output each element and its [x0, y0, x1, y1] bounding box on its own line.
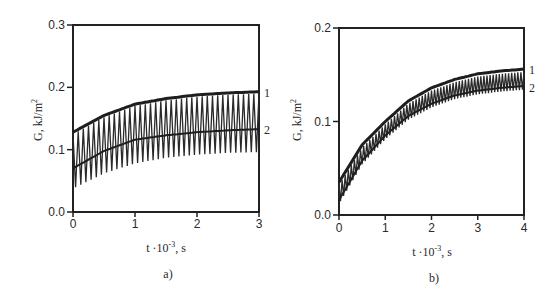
- curve-label-1-a: 1: [264, 86, 270, 100]
- y-tick-label: 0.1: [314, 115, 331, 129]
- x-tick-label: 0: [70, 217, 77, 231]
- x-axis-label-b: t ·10-3, s: [412, 244, 452, 259]
- oscillation-trace: [73, 94, 259, 188]
- y-tick-label: 0.2: [48, 80, 65, 94]
- curve-label-1-b: 1: [529, 63, 535, 77]
- panel-b: 012340.00.10.2 1 2 G, kJ/m2 t ·10-3, s b…: [289, 21, 535, 285]
- oscillation-band-a: [73, 94, 259, 188]
- x-tick-label: 4: [521, 221, 528, 235]
- panel-label-a: a): [163, 267, 172, 281]
- figure: 01230.00.10.20.3 1 2 G, kJ/m2 t ·10-3, s…: [0, 0, 560, 302]
- curve-label-2-b: 2: [529, 81, 535, 95]
- y-tick-label: 0.0: [48, 205, 65, 219]
- curve-1-b: [339, 69, 524, 182]
- x-tick-label: 3: [474, 221, 481, 235]
- y-tick-label: 0.3: [48, 18, 65, 32]
- x-tick-label: 3: [256, 217, 263, 231]
- y-tick-label: 0.0: [314, 208, 331, 222]
- plot-frame-b: [339, 28, 524, 215]
- y-tick-label: 0.2: [314, 21, 331, 35]
- panel-a: 01230.00.10.20.3 1 2 G, kJ/m2 t ·10-3, s…: [30, 18, 270, 281]
- panel-label-b: b): [429, 271, 439, 285]
- oscillation-band-b: [339, 72, 524, 201]
- x-tick-label: 0: [336, 221, 343, 235]
- x-tick-label: 2: [194, 217, 201, 231]
- curve-label-2-a: 2: [264, 123, 270, 137]
- y-axis-label-b: G, kJ/m2: [289, 99, 304, 141]
- x-tick-label: 1: [382, 221, 389, 235]
- ticks-a: 01230.00.10.20.3: [48, 18, 262, 231]
- y-axis-label-a: G, kJ/m2: [30, 99, 45, 141]
- oscillation-trace: [339, 72, 524, 201]
- x-tick-label: 2: [428, 221, 435, 235]
- ticks-b: 012340.00.10.2: [314, 21, 527, 235]
- y-tick-label: 0.1: [48, 143, 65, 157]
- x-axis-label-a: t ·10-3, s: [146, 240, 186, 255]
- x-tick-label: 1: [132, 217, 139, 231]
